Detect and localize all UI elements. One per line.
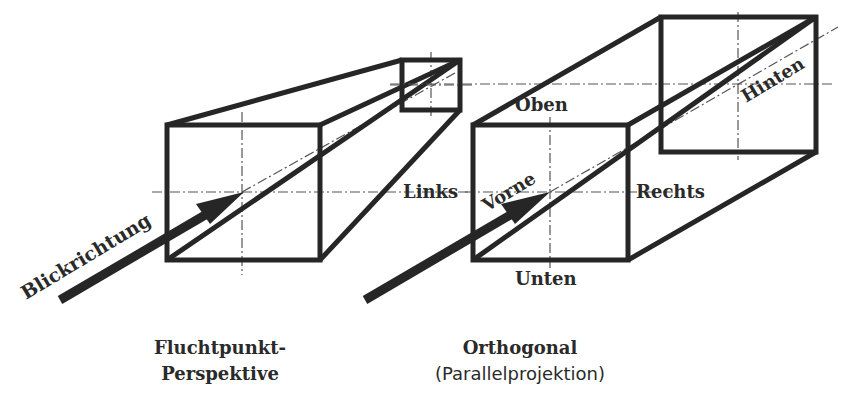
- label-oben: Oben: [515, 94, 568, 115]
- perspective-figure: Blickrichtung Links: [17, 52, 472, 303]
- perspective-edge-top-left: [167, 60, 402, 125]
- caption-perspective: Fluchtpunkt- Perspektive: [120, 335, 320, 387]
- caption-perspective-line2: Perspektive: [120, 361, 320, 387]
- label-rechts: Rechts: [636, 181, 705, 202]
- perspective-sight-line: [242, 73, 455, 192]
- label-links: Links: [403, 181, 458, 202]
- label-hinten: Hinten: [737, 52, 808, 106]
- caption-orthogonal-title: Orthogonal: [400, 335, 640, 361]
- caption-orthogonal: Orthogonal (Parallelprojektion): [400, 335, 640, 387]
- ortho-sight-line: [550, 27, 838, 192]
- ortho-edge-bottom-left: [473, 17, 816, 260]
- caption-perspective-line1: Fluchtpunkt-: [120, 335, 320, 361]
- perspective-edge-top-right: [320, 60, 460, 125]
- ortho-edge-bottom-right: [628, 152, 816, 260]
- caption-orthogonal-subtitle: (Parallelprojektion): [400, 361, 640, 387]
- label-unten: Unten: [515, 268, 577, 289]
- orthogonal-figure: Vorne Oben Rechts Unten Hinten: [365, 12, 838, 300]
